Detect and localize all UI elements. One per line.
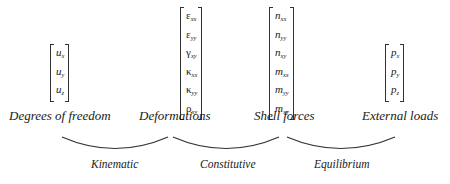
equilibrium-label: Equilibrium bbox=[314, 158, 370, 170]
constitutive-curve bbox=[173, 137, 279, 149]
relation-curves bbox=[0, 0, 450, 184]
kinematic-label: Kinematic bbox=[91, 158, 138, 170]
equilibrium-curve bbox=[287, 137, 395, 149]
kinematic-curve bbox=[62, 137, 168, 149]
constitutive-label: Constitutive bbox=[200, 158, 256, 170]
